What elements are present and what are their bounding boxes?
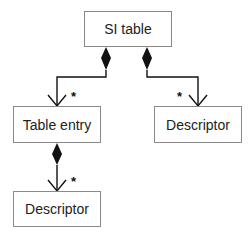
- table-entry-label: Table entry: [23, 117, 91, 133]
- multiplicity-label: *: [71, 174, 76, 189]
- descriptor-bottom-box: Descriptor: [13, 191, 101, 227]
- si-table-box: SI table: [84, 11, 172, 47]
- multiplicity-label: *: [177, 89, 182, 104]
- si-table-label: SI table: [104, 21, 151, 37]
- descriptor-right-box: Descriptor: [154, 106, 242, 143]
- multiplicity-label: *: [71, 89, 76, 104]
- edge-si-table-to-table-entry: [48, 47, 111, 106]
- table-entry-box: Table entry: [13, 106, 101, 143]
- descriptor-right-label: Descriptor: [166, 117, 230, 133]
- composition-diamond-icon: [101, 47, 111, 70]
- descriptor-bottom-label: Descriptor: [25, 201, 89, 217]
- edge-table-entry-to-descriptor: [48, 143, 66, 191]
- composition-diamond-icon: [142, 47, 152, 70]
- composition-diamond-icon: [52, 143, 62, 165]
- edge-si-table-to-descriptor: [142, 47, 207, 106]
